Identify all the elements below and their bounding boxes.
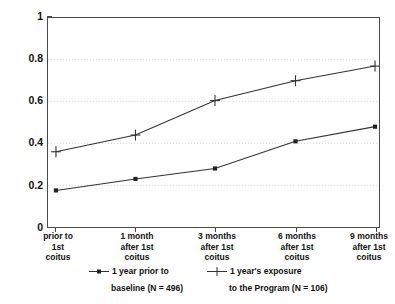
x-tick-label-9-months-after-1st-coitus: 9 months after 1st coitus — [350, 231, 388, 263]
series-layer — [51, 61, 379, 193]
data-point-marker — [293, 139, 297, 143]
legend-label-line2: to the Program (N = 106) — [207, 283, 327, 294]
x-tick-label-line1: prior to — [43, 231, 73, 242]
gridlines — [48, 60, 379, 185]
plot-area — [47, 17, 380, 228]
legend-entry-program-exposure: 1 year's exposure to the Program (N = 10… — [207, 266, 327, 294]
legend-plus-marker-icon — [207, 267, 227, 276]
x-tick-label-line2: after 1st — [350, 242, 388, 253]
x-tick-label-line1: 1 month — [120, 231, 153, 242]
data-point-marker — [373, 125, 377, 129]
x-tick-label-line2: after 1st — [120, 242, 153, 253]
chart-canvas — [48, 18, 379, 227]
x-tick-label-line3: coitus — [120, 252, 153, 263]
x-tick-label-line3: coitus — [350, 252, 388, 263]
series-2 — [51, 61, 379, 158]
legend-label-line1: 1 year's exposure — [230, 266, 301, 276]
x-tick-label-6-months-after-1st-coitus: 6 months after 1st coitus — [278, 231, 316, 263]
series-line — [56, 127, 375, 191]
data-point-marker — [133, 177, 137, 181]
y-tick-label-1: 1 — [3, 11, 43, 22]
chart-legend: 1 year prior to baseline (N = 496) 1 yea… — [0, 266, 395, 304]
x-tick-label-prior-to-1st-coitus: prior to 1st coitus — [43, 231, 73, 263]
legend-label-line2: baseline (N = 496) — [89, 283, 183, 294]
x-tick-label-3-months-after-1st-coitus: 3 months after 1st coitus — [198, 231, 236, 263]
x-tick-label-line1: 3 months — [198, 231, 236, 242]
x-axis: prior to 1st coitus 1 month after 1st co… — [0, 231, 395, 267]
series-line — [56, 66, 375, 152]
x-tick-label-line3: coitus — [43, 252, 73, 263]
y-tick-label-0.4: 0.4 — [3, 137, 43, 148]
x-tick-label-line3: coitus — [278, 252, 316, 263]
legend-label-line1: 1 year prior to — [112, 266, 169, 276]
legend-entry-prior-to-baseline: 1 year prior to baseline (N = 496) — [89, 266, 183, 294]
data-point-marker — [213, 166, 217, 170]
x-tick-label-1-month-after-1st-coitus: 1 month after 1st coitus — [120, 231, 153, 263]
x-tick-label-line3: coitus — [198, 252, 236, 263]
series-1 — [54, 125, 377, 193]
x-tick-label-line1: 9 months — [350, 231, 388, 242]
y-tick-label-0.6: 0.6 — [3, 95, 43, 106]
data-point-marker — [54, 188, 58, 192]
legend-square-marker-icon — [89, 267, 109, 276]
x-tick-label-line2: after 1st — [278, 242, 316, 253]
y-tick-label-0.8: 0.8 — [3, 53, 43, 64]
x-tick-label-line1: 6 months — [278, 231, 316, 242]
chart-figure: 1 0.8 0.6 0.4 0.2 0 prior t — [0, 0, 395, 304]
y-tick-label-0.2: 0.2 — [3, 180, 43, 191]
x-tick-label-line2: 1st — [43, 242, 73, 253]
x-tick-label-line2: after 1st — [198, 242, 236, 253]
